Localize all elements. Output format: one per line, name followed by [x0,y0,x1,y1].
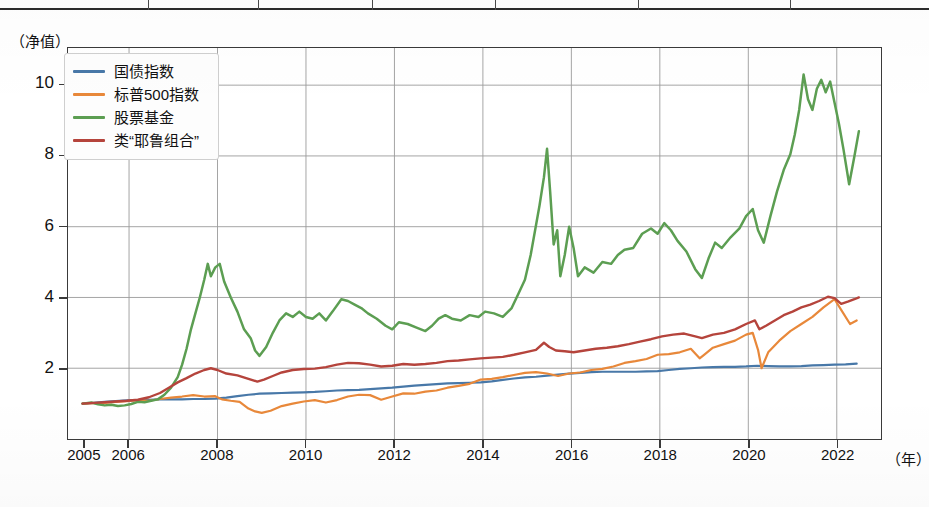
series-line-4 [83,297,859,404]
y-axis-tick-label: 6 [14,216,54,236]
legend-item-1[interactable]: 国债指数 [73,60,210,83]
figure-root: （净值） （年） 1086422005200620082010201220142… [0,0,929,507]
x-axis-tick-label: 2005 [67,446,100,463]
table-column-divider [638,0,639,10]
legend-item-label: 标普500指数 [114,87,199,102]
y-axis-tick-label: 10 [14,73,54,93]
y-axis-tick-mark [59,368,67,370]
table-column-divider [258,0,259,10]
legend-item-3[interactable]: 股票基金 [73,106,210,129]
legend-item-4[interactable]: 类“耶鲁组合” [73,129,210,152]
table-column-divider [790,0,791,10]
x-axis-tick-mark [305,440,307,448]
legend-color-swatch [73,116,105,119]
x-axis-tick-mark [482,440,484,448]
x-axis-tick-mark [127,440,129,448]
x-axis-tick-label: 2014 [466,446,499,463]
table-column-divider [495,0,496,10]
legend-item-label: 股票基金 [114,110,174,125]
x-axis-tick-mark [393,440,395,448]
x-axis-tick-label: 2020 [732,446,765,463]
x-axis-tick-label: 2018 [644,446,677,463]
x-axis-tick-mark [216,440,218,448]
x-axis-tick-label: 2022 [821,446,854,463]
chart-legend: 国债指数标普500指数股票基金类“耶鲁组合” [64,53,219,160]
x-axis-tick-mark [659,440,661,448]
x-axis-unit-label: （年） [886,448,929,469]
legend-color-swatch [73,93,105,96]
x-axis-tick-label: 2006 [112,446,145,463]
legend-color-swatch [73,70,105,73]
y-axis-tick-label: 2 [14,358,54,378]
table-column-divider [372,0,373,10]
x-axis-tick-mark [83,440,85,448]
x-axis-tick-label: 2012 [378,446,411,463]
y-axis-unit-label: （净值） [10,30,70,51]
table-bottom-edge [0,0,929,12]
x-axis-tick-label: 2010 [289,446,322,463]
x-axis-tick-mark [571,440,573,448]
legend-item-label: 国债指数 [114,64,174,79]
y-axis-tick-label: 4 [14,287,54,307]
y-axis-tick-mark [59,297,67,299]
table-column-divider [148,0,149,10]
x-axis-tick-label: 2008 [200,446,233,463]
x-axis-tick-label: 2016 [555,446,588,463]
y-axis-tick-label: 8 [14,144,54,164]
x-axis-tick-mark [837,440,839,448]
legend-item-label: 类“耶鲁组合” [114,133,199,148]
legend-item-2[interactable]: 标普500指数 [73,83,210,106]
x-axis-tick-mark [748,440,750,448]
legend-color-swatch [73,139,105,142]
y-axis-tick-mark [59,226,67,228]
